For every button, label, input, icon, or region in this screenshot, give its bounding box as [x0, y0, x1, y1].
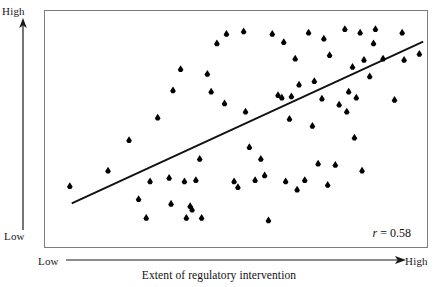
x-axis-caption: Extent of regulatory intervention: [0, 270, 438, 282]
data-point: [281, 38, 287, 45]
data-point: [208, 88, 214, 95]
scatter-plot-figure: High Low r = 0.58 Low High Extent of reg…: [0, 0, 438, 287]
data-point: [214, 39, 220, 46]
data-point: [292, 55, 298, 62]
data-point: [199, 214, 205, 221]
data-point: [373, 25, 379, 32]
data-point: [105, 167, 111, 174]
correlation-annotation: r = 0.58: [373, 227, 411, 239]
data-point: [401, 56, 407, 63]
data-point: [204, 70, 210, 77]
data-point: [258, 155, 264, 162]
data-point: [342, 25, 348, 32]
data-point: [266, 216, 272, 223]
data-point: [380, 55, 386, 62]
data-point: [67, 182, 73, 189]
data-point: [392, 96, 398, 103]
x-axis-arrow-icon: [66, 252, 406, 268]
data-point: [417, 50, 423, 57]
data-point: [310, 122, 316, 129]
data-point: [269, 30, 275, 37]
data-point: [170, 87, 176, 94]
data-point: [243, 108, 249, 115]
data-point: [306, 29, 312, 36]
data-point: [367, 72, 373, 79]
trendline: [72, 42, 423, 204]
x-axis-low-label: Low: [38, 256, 59, 267]
data-point: [332, 161, 338, 168]
data-point: [183, 214, 189, 221]
data-point: [247, 143, 253, 150]
data-point: [222, 100, 228, 107]
data-point: [399, 29, 405, 36]
plot-area: r = 0.58: [44, 10, 428, 248]
data-point: [325, 181, 331, 188]
data-point: [252, 176, 258, 183]
plot-canvas: [45, 11, 427, 247]
data-point: [302, 176, 308, 183]
data-point: [346, 88, 352, 95]
data-point: [359, 167, 365, 174]
data-point: [311, 77, 317, 84]
data-point: [353, 94, 359, 101]
data-point: [319, 95, 325, 102]
data-point: [136, 195, 142, 202]
data-point: [193, 176, 199, 183]
data-point: [224, 30, 230, 37]
data-point: [289, 92, 295, 99]
data-point: [344, 108, 350, 115]
x-axis-high-label: High: [405, 256, 428, 267]
data-point: [262, 172, 268, 179]
data-point: [197, 155, 203, 162]
data-point: [241, 28, 247, 35]
data-point: [231, 177, 237, 184]
data-point: [126, 136, 132, 143]
data-point: [321, 35, 327, 42]
data-point: [371, 39, 377, 46]
data-point: [336, 101, 342, 108]
data-point: [352, 134, 358, 141]
trendline-segment: [72, 42, 423, 204]
data-point: [147, 177, 153, 184]
y-axis-high-label: High: [2, 6, 25, 17]
data-point: [166, 174, 172, 181]
y-axis-low-label: Low: [4, 231, 25, 242]
data-point: [178, 65, 184, 72]
y-axis-arrow-icon: [12, 18, 34, 230]
data-point: [361, 56, 367, 63]
data-point: [294, 186, 300, 193]
data-point: [350, 63, 356, 70]
data-point: [143, 214, 149, 221]
data-point: [287, 115, 293, 122]
data-point: [182, 177, 188, 184]
data-point: [235, 183, 241, 190]
data-point: [155, 114, 161, 121]
correlation-value: = 0.58: [377, 226, 411, 240]
data-point: [357, 29, 363, 36]
data-point: [315, 160, 321, 167]
data-point: [168, 200, 174, 207]
data-point: [327, 51, 333, 58]
data-point: [283, 177, 289, 184]
data-point: [296, 81, 302, 88]
